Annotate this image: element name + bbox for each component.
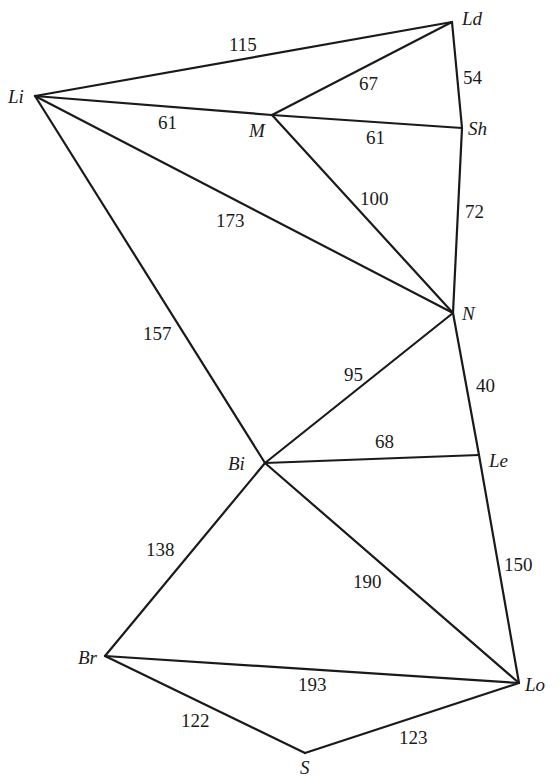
edge-li-bi [35, 96, 265, 463]
edge-weight-label: 61 [158, 112, 177, 133]
edge-ld-sh [452, 22, 462, 128]
edge-weight-label: 157 [143, 323, 172, 344]
node-label-bi: Bi [228, 453, 245, 474]
edge-weight-label: 72 [465, 201, 484, 222]
edge-weights-layer: 1156117315767611005472954068138190150193… [143, 34, 533, 748]
edge-weight-label: 173 [216, 210, 245, 231]
edge-weight-label: 115 [229, 34, 257, 55]
edge-weight-label: 193 [298, 674, 327, 695]
edges-layer [35, 22, 519, 753]
edge-sh-n [453, 128, 462, 313]
edge-weight-label: 54 [463, 67, 483, 88]
edge-weight-label: 150 [504, 554, 533, 575]
edge-weight-label: 40 [476, 375, 495, 396]
edge-weight-label: 67 [359, 73, 378, 94]
node-label-br: Br [78, 647, 98, 668]
road-network-graph: 1156117315767611005472954068138190150193… [0, 0, 560, 778]
edge-m-ld [272, 22, 452, 115]
edge-m-n [272, 115, 453, 313]
edge-br-s [105, 656, 305, 753]
edge-weight-label: 61 [366, 127, 385, 148]
node-label-sh: Sh [468, 118, 487, 139]
edge-bi-lo [265, 463, 519, 683]
edge-n-bi [265, 313, 453, 463]
node-label-lo: Lo [524, 674, 545, 695]
edge-weight-label: 190 [353, 571, 382, 592]
edge-weight-label: 95 [344, 364, 363, 385]
node-label-n: N [461, 303, 476, 324]
node-label-s: S [300, 757, 310, 778]
edge-li-n [35, 96, 453, 313]
edge-weight-label: 123 [399, 727, 428, 748]
node-label-ld: Ld [461, 8, 483, 29]
node-label-li: Li [7, 86, 24, 107]
node-label-m: M [248, 120, 266, 141]
edge-weight-label: 122 [181, 710, 210, 731]
edge-weight-label: 138 [146, 539, 175, 560]
edge-weight-label: 100 [360, 188, 389, 209]
node-label-le: Le [488, 450, 508, 471]
edge-li-m [35, 96, 272, 115]
edge-weight-label: 68 [375, 431, 394, 452]
edge-bi-br [105, 463, 265, 656]
edge-bi-le [265, 455, 479, 463]
